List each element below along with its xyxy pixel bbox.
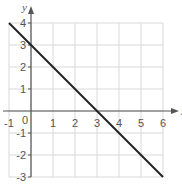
- y-axis-arrow-icon: [28, 6, 34, 14]
- axes: [3, 6, 179, 177]
- x-tick-label: 4: [116, 117, 122, 129]
- y-tick-label: 4: [20, 17, 26, 29]
- y-tick-label: 2: [20, 61, 26, 73]
- x-axis-arrow-icon: [171, 108, 179, 114]
- x-tick-label: 5: [138, 117, 144, 129]
- x-tick-label: 6: [160, 117, 166, 129]
- y-tick-label: 1: [20, 83, 26, 95]
- x-tick-label: 1: [50, 117, 56, 129]
- origin-label: 0: [22, 114, 28, 126]
- y-tick-label: 3: [20, 39, 26, 51]
- x-tick-label: -1: [4, 117, 14, 129]
- data-series: [9, 23, 163, 177]
- y-tick-label: -3: [16, 171, 26, 183]
- line-series: [9, 23, 163, 177]
- x-axis-label: x: [180, 105, 182, 117]
- x-tick-label: 2: [72, 117, 78, 129]
- line-chart: -1123456-3-2-11234 x y 0: [0, 0, 182, 188]
- y-axis-label: y: [21, 1, 27, 13]
- y-tick-label: -2: [16, 149, 26, 161]
- y-tick-label: -1: [16, 127, 26, 139]
- x-tick-label: 3: [94, 117, 100, 129]
